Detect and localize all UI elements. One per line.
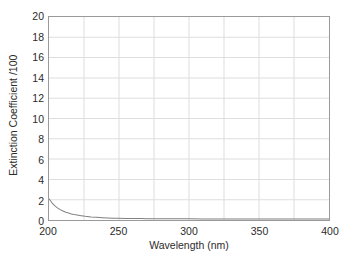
series-path [49,199,329,219]
y-tick-label: 16 [20,52,44,63]
x-axis-tick-labels: 200250300350400 [0,226,348,240]
y-tick-label: 10 [20,113,44,124]
y-tick-label: 4 [20,175,44,186]
y-axis-tick-labels: 02468101214161820 [14,0,44,259]
y-tick-label: 18 [20,31,44,42]
y-tick-label: 2 [20,195,44,206]
chart-figure: Extinction Coefficient /100 024681012141… [0,0,348,259]
y-tick-label: 14 [20,72,44,83]
plot-area [48,16,330,221]
y-tick-label: 12 [20,93,44,104]
y-tick-label: 8 [20,134,44,145]
x-tick-label: 350 [240,226,280,237]
x-axis-title: Wavelength (nm) [48,240,330,251]
y-tick-label: 20 [20,11,44,22]
x-tick-label: 400 [310,226,348,237]
x-tick-label: 300 [169,226,209,237]
x-tick-label: 200 [28,226,68,237]
y-tick-label: 6 [20,154,44,165]
data-series-line [49,17,329,220]
x-tick-label: 250 [99,226,139,237]
